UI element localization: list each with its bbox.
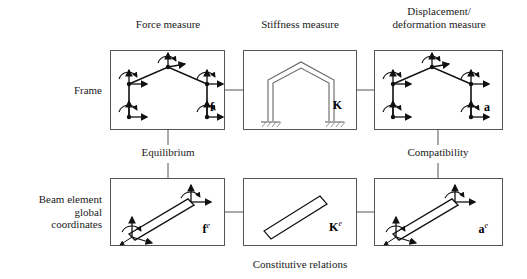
cell-element-stiffness[interactable]: Ke xyxy=(243,178,357,246)
row-label-beam-element: Beam element global coordinates xyxy=(6,193,102,231)
connector-label-compatibility: Compatibility xyxy=(388,146,488,159)
symbol-element-force: fe xyxy=(202,221,210,237)
cell-frame-force[interactable]: f xyxy=(110,50,225,130)
column-header-displacement: Displacement/ deformation measure xyxy=(374,5,504,30)
column-header-force: Force measure xyxy=(108,18,228,31)
row-label-frame: Frame xyxy=(10,84,102,97)
connector-label-constitutive: Constitutive relations xyxy=(215,258,385,271)
frame-fixed-supports-graphic xyxy=(244,51,358,131)
frame-nodal-forces-graphic xyxy=(111,51,226,131)
symbol-frame-stiffness: K xyxy=(333,98,342,113)
symbol-frame-force: f xyxy=(210,100,214,115)
column-header-stiffness: Stiffness measure xyxy=(240,18,360,31)
diagram-canvas: Force measure Stiffness measure Displace… xyxy=(0,0,527,279)
cell-frame-stiffness[interactable]: K xyxy=(243,50,357,130)
cell-element-force[interactable]: fe xyxy=(110,178,225,246)
cell-frame-displacement[interactable]: a xyxy=(374,50,503,130)
symbol-frame-displacement: a xyxy=(484,100,490,115)
symbol-element-displacement: ae xyxy=(478,221,488,237)
symbol-element-stiffness: Ke xyxy=(329,219,342,235)
cell-element-displacement[interactable]: ae xyxy=(374,178,503,246)
connector-label-equilibrium: Equilibrium xyxy=(118,146,218,159)
frame-nodal-displacements-graphic xyxy=(375,51,504,131)
beam-element-graphic xyxy=(244,179,358,247)
